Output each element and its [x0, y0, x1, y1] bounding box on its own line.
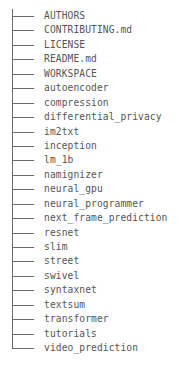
- directory-tree: AUTHORSCONTRIBUTING.mdLICENSEREADME.mdWO…: [0, 9, 179, 356]
- tree-entry[interactable]: neural_programmer: [0, 197, 179, 211]
- entry-name: AUTHORS: [44, 9, 85, 23]
- entry-name: resnet: [44, 226, 79, 240]
- tree-branch-connector: [12, 197, 34, 211]
- entry-name: textsum: [44, 298, 85, 312]
- entry-name: README.md: [44, 52, 97, 66]
- tree-entry[interactable]: textsum: [0, 298, 179, 312]
- tree-branch-connector: [12, 38, 34, 52]
- tree-branch-connector: [12, 269, 34, 283]
- entry-name: LICENSE: [44, 38, 85, 52]
- tree-branch-connector: [12, 312, 34, 326]
- tree-branch-connector: [12, 9, 34, 23]
- tree-branch-connector: [12, 327, 34, 341]
- tree-entry[interactable]: street: [0, 254, 179, 268]
- tree-branch-connector: [12, 182, 34, 196]
- tree-branch-connector: [12, 96, 34, 110]
- tree-branch-connector: [12, 110, 34, 124]
- tree-entry[interactable]: namignizer: [0, 168, 179, 182]
- tree-entry[interactable]: next_frame_prediction: [0, 211, 179, 225]
- tree-entry[interactable]: README.md: [0, 52, 179, 66]
- entry-name: differential_privacy: [44, 110, 162, 124]
- entry-name: lm_1b: [44, 153, 73, 167]
- entry-name: swivel: [44, 269, 79, 283]
- tree-branch-connector: [12, 226, 34, 240]
- tree-entry[interactable]: inception: [0, 139, 179, 153]
- tree-entry[interactable]: WORKSPACE: [0, 67, 179, 81]
- entry-name: CONTRIBUTING.md: [44, 23, 132, 37]
- tree-entry[interactable]: video_prediction: [0, 341, 179, 355]
- tree-branch-connector: [12, 298, 34, 312]
- entry-name: im2txt: [44, 125, 79, 139]
- tree-branch-connector: [12, 211, 34, 225]
- tree-entry[interactable]: im2txt: [0, 125, 179, 139]
- tree-entry[interactable]: AUTHORS: [0, 9, 179, 23]
- tree-branch-connector: [12, 240, 34, 254]
- tree-entry[interactable]: transformer: [0, 312, 179, 326]
- tree-entry[interactable]: CONTRIBUTING.md: [0, 23, 179, 37]
- tree-entry[interactable]: swivel: [0, 269, 179, 283]
- entry-name: syntaxnet: [44, 283, 97, 297]
- tree-branch-connector: [12, 81, 34, 95]
- entry-name: tutorials: [44, 327, 97, 341]
- entry-name: neural_programmer: [44, 197, 144, 211]
- entry-name: street: [44, 254, 79, 268]
- tree-entry[interactable]: lm_1b: [0, 153, 179, 167]
- tree-branch-connector: [12, 168, 34, 182]
- entry-name: slim: [44, 240, 68, 254]
- tree-entry[interactable]: slim: [0, 240, 179, 254]
- entry-name: video_prediction: [44, 341, 138, 355]
- entry-name: compression: [44, 96, 109, 110]
- tree-branch-connector: [12, 23, 34, 37]
- tree-branch-connector: [12, 153, 34, 167]
- entry-name: inception: [44, 139, 97, 153]
- tree-entry[interactable]: autoencoder: [0, 81, 179, 95]
- tree-branch-connector: [12, 139, 34, 153]
- tree-corner-connector: [12, 341, 34, 355]
- entry-name: next_frame_prediction: [44, 211, 167, 225]
- tree-entry[interactable]: LICENSE: [0, 38, 179, 52]
- tree-entry[interactable]: tutorials: [0, 327, 179, 341]
- tree-branch-connector: [12, 67, 34, 81]
- entry-name: WORKSPACE: [44, 67, 97, 81]
- entry-name: namignizer: [44, 168, 103, 182]
- tree-branch-connector: [12, 125, 34, 139]
- tree-entry[interactable]: compression: [0, 96, 179, 110]
- entry-name: neural_gpu: [44, 182, 103, 196]
- tree-entry[interactable]: resnet: [0, 226, 179, 240]
- tree-branch-connector: [12, 52, 34, 66]
- tree-entry[interactable]: differential_privacy: [0, 110, 179, 124]
- tree-entry[interactable]: neural_gpu: [0, 182, 179, 196]
- tree-branch-connector: [12, 254, 34, 268]
- entry-name: transformer: [44, 312, 109, 326]
- tree-branch-connector: [12, 283, 34, 297]
- tree-entry[interactable]: syntaxnet: [0, 283, 179, 297]
- entry-name: autoencoder: [44, 81, 109, 95]
